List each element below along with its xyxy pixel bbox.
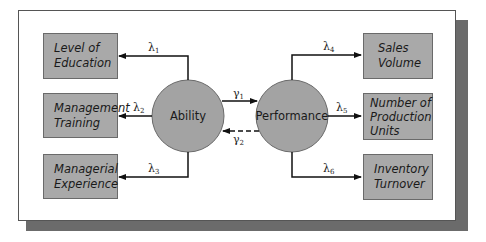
indicator-label: Production [370,110,432,124]
gamma1-label: γ1 [233,88,244,101]
indicator-label: Number of [370,96,432,110]
indicator-label: Managerial [54,162,117,177]
indicator-label: Education [54,56,117,71]
indicator-label: Volume [378,56,432,71]
indicator-managerial-experience: Managerial Experience [43,154,118,199]
lambda1-arrow [119,56,188,80]
lambda1-label: λ1 [148,42,159,55]
indicator-label: Units [370,124,432,138]
indicator-label: Turnover [374,177,432,192]
indicator-level-of-education: Level of Education [43,33,118,79]
indicator-inventory-turnover: Inventory Turnover [363,154,433,200]
indicator-label: Experience [54,177,117,192]
lambda6-label: λ6 [323,163,334,176]
ability-label: Ability [152,109,224,123]
indicator-management-training: Management Training [43,93,118,138]
indicator-number-of-production-units: Number of Production Units [363,93,433,140]
lambda3-label: λ3 [148,163,159,176]
gamma2-label: γ2 [233,134,244,147]
lambda5-label: λ5 [336,102,347,115]
indicator-label: Inventory [374,162,432,177]
indicator-sales-volume: Sales Volume [363,33,433,79]
lambda2-label: λ2 [133,102,144,115]
indicator-label: Management [54,101,117,116]
indicator-label: Level of [54,41,117,56]
performance-label: Performance [254,109,330,123]
lambda4-label: λ4 [323,41,334,54]
lambda4-arrow [292,55,361,80]
indicator-label: Training [54,116,117,131]
indicator-label: Sales [378,41,432,56]
